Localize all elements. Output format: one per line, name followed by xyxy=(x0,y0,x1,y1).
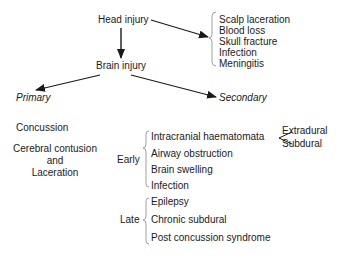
complication-item: Blood loss xyxy=(219,25,265,36)
early-item: Airway obstruction xyxy=(151,148,233,159)
haematomata-type: Subdural xyxy=(282,138,322,149)
early-item: Brain swelling xyxy=(151,164,213,175)
late-label: Late xyxy=(120,214,139,225)
complication-item: Scalp laceration xyxy=(219,14,290,25)
haematomata-type: Extradural xyxy=(282,125,328,136)
early-item: Infection xyxy=(151,180,189,191)
node-brain-injury: Brain injury xyxy=(96,60,146,71)
arrow-head-to-complications xyxy=(151,20,208,37)
branch-secondary-label: Secondary xyxy=(219,92,267,103)
complication-item: Infection xyxy=(219,47,257,58)
brace-early xyxy=(143,131,149,187)
complication-item: Skull fracture xyxy=(219,36,277,47)
node-head-injury: Head injury xyxy=(98,14,149,25)
primary-item: Cerebral contusion xyxy=(10,143,100,154)
late-item: Post concussion syndrome xyxy=(151,232,271,243)
complication-item: Meningitis xyxy=(219,58,264,69)
primary-item: Concussion xyxy=(16,122,68,133)
late-item: Epilepsy xyxy=(151,196,189,207)
early-label: Early xyxy=(117,154,140,165)
brace-complications xyxy=(209,12,216,66)
late-item: Chronic subdural xyxy=(151,214,227,225)
primary-item: Laceration xyxy=(10,167,100,178)
brace-late xyxy=(143,198,149,244)
early-item: Intracranial haematomata xyxy=(151,131,264,142)
primary-item: and xyxy=(10,155,100,166)
arrow-to-secondary xyxy=(131,75,216,97)
arrow-to-primary xyxy=(36,75,100,90)
branch-primary-label: Primary xyxy=(16,92,50,103)
